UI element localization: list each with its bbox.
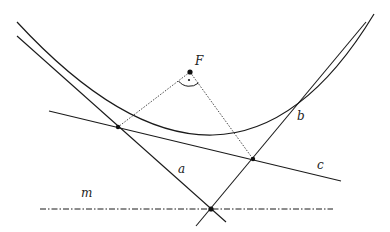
- label-focus: F: [194, 54, 204, 68]
- parabola-curve: [17, 14, 374, 135]
- intersection-point-ab-on-directrix: [208, 206, 213, 211]
- parabola-diagram: F a b c m: [0, 0, 390, 232]
- intersection-point-ac: [116, 125, 120, 129]
- label-tangent-a: a: [178, 162, 185, 176]
- dotted-segment-focus-to-p2: [190, 72, 253, 159]
- tangent-line-b: [196, 22, 366, 226]
- intersection-point-bc: [251, 157, 255, 161]
- label-directrix-m: m: [81, 186, 92, 200]
- label-tangent-b: b: [297, 109, 305, 123]
- right-angle-arc-icon: [179, 81, 199, 86]
- label-tangent-c: c: [317, 158, 324, 172]
- dotted-segment-focus-to-p1: [118, 72, 190, 127]
- focus-point: [187, 69, 192, 74]
- right-angle-dot-icon: [188, 79, 190, 81]
